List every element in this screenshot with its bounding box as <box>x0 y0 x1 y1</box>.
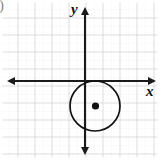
y-axis-bottom-arrowhead <box>81 147 89 155</box>
x-axis <box>7 77 156 85</box>
coordinate-plane-figure: ) y <box>0 0 162 166</box>
y-axis-label: y <box>71 2 78 17</box>
y-axis-top-arrowhead <box>81 7 89 15</box>
circle-center-dot <box>92 102 99 109</box>
axes-and-shapes <box>0 0 162 166</box>
x-axis-left-arrowhead <box>7 77 15 85</box>
x-axis-label: x <box>146 84 154 99</box>
